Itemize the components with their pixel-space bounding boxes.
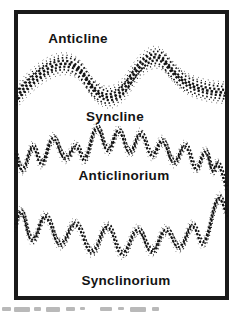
stipple-stroke <box>15 204 226 260</box>
stipple-stroke <box>16 57 227 97</box>
synclinorium-band <box>15 192 228 260</box>
fold-diagram <box>0 0 245 317</box>
stipple-stroke <box>17 196 228 252</box>
figure-panel: Anticline Syncline Anticlinorium Synclin… <box>0 0 245 317</box>
anticlinorium-label: Anticlinorium <box>79 169 170 183</box>
anticline-syncline-band <box>15 46 228 108</box>
syncline-label: Syncline <box>86 110 144 124</box>
stipple-stroke <box>15 198 226 254</box>
anticline-label: Anticline <box>48 32 108 46</box>
stipple-stroke <box>16 200 227 256</box>
synclinorium-label: Synclinorium <box>81 274 170 288</box>
stipple-stroke <box>17 132 228 192</box>
stipple-stroke <box>15 134 226 194</box>
anticlinorium-band <box>15 122 228 194</box>
stipple-stroke <box>15 192 226 248</box>
